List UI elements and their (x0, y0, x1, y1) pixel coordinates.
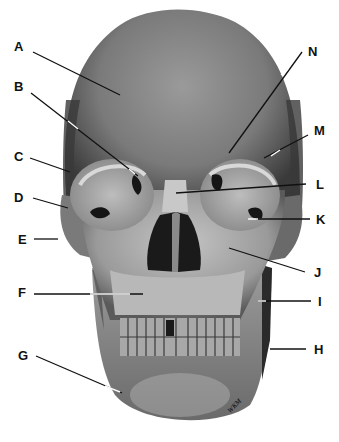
label-F: F (18, 286, 26, 299)
label-H: H (314, 343, 323, 356)
teeth (120, 318, 240, 356)
label-M: M (314, 124, 325, 137)
label-G: G (18, 349, 28, 362)
label-E: E (18, 233, 27, 246)
label-B: B (14, 80, 23, 93)
label-N: N (308, 45, 317, 58)
label-L: L (316, 178, 324, 191)
right-orbit (200, 159, 280, 231)
label-J: J (314, 266, 321, 279)
label-K: K (316, 213, 325, 226)
skull-diagram: A B C D E F G H I J K L M N WKM (0, 0, 339, 442)
label-C: C (14, 150, 23, 163)
label-I: I (318, 295, 322, 308)
label-A: A (14, 40, 23, 53)
skull-illustration (0, 0, 339, 442)
label-D: D (14, 191, 23, 204)
